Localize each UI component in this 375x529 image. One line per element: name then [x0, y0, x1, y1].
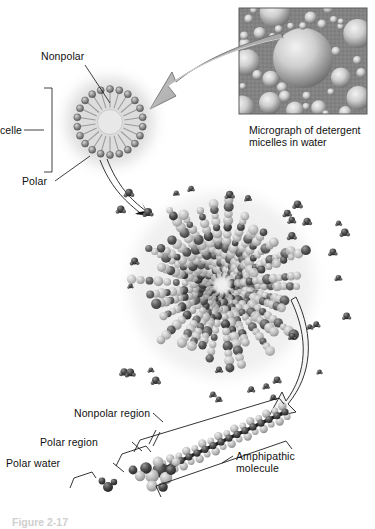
arrow-micelle-to-center [100, 159, 150, 216]
micrograph-caption-line1: Micrograph of detergent [249, 124, 360, 137]
figure-number-caption: Figure 2-17 [12, 516, 68, 529]
label-micelle: Micelle [0, 124, 22, 136]
label-nonpolar-region: Nonpolar region [74, 407, 150, 419]
label-polar-water: Polar water [6, 457, 60, 469]
label-amphipathic-line2: molecule [236, 462, 279, 474]
label-nonpolar: Nonpolar [41, 50, 84, 62]
label-amphipathic-line1: Amphipathic [236, 450, 295, 462]
micrograph-caption-line2: micelles in water [249, 136, 327, 149]
central-micelle-render [116, 186, 352, 403]
micelle-cross-section [66, 78, 154, 166]
label-polar-region: Polar region [40, 436, 98, 448]
label-polar: Polar [22, 175, 47, 187]
micrograph-image [230, 0, 372, 120]
